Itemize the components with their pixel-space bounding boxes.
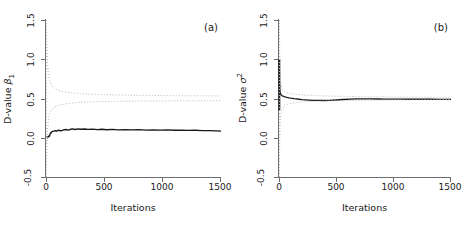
reference-band-line (279, 100, 451, 177)
panel-a-curves (0, 0, 230, 230)
dvalue-line (46, 129, 221, 138)
panel-a: D-value β1 -0.5 0.0 0.5 1.0 1.5 0 500 10… (0, 0, 230, 230)
panel-b-curves (230, 0, 460, 230)
reference-band-line (279, 20, 451, 97)
dvalue-line (279, 59, 451, 100)
reference-band-line (46, 101, 221, 177)
panel-b: D-value σ2 -0.5 0.0 0.5 1.0 1.5 0 500 10… (230, 0, 460, 230)
reference-band-line (46, 20, 221, 96)
